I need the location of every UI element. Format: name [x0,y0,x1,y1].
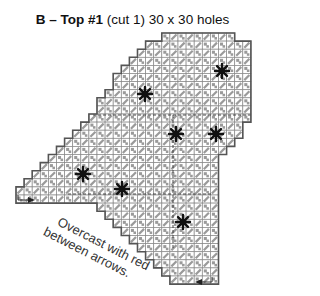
star-stitch-icon [215,64,229,78]
star-stitch-icon [138,87,152,101]
star-stitch-icon [115,182,129,196]
star-stitch-icon [169,127,183,141]
star-stitch-icon [209,127,223,141]
star-stitch-icon [176,215,190,229]
star-stitch-icon [76,167,90,181]
